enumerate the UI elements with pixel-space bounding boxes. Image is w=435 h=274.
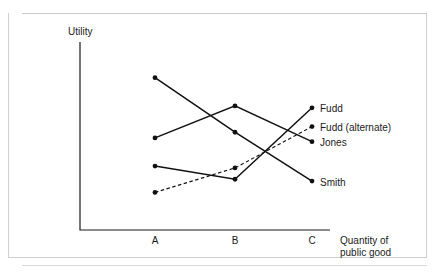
series-path — [155, 127, 312, 193]
series-label-fudd: Fudd — [320, 103, 343, 114]
series-path — [155, 106, 312, 142]
x-tick-label-b: B — [232, 235, 239, 246]
y-axis-title: Utility — [68, 26, 92, 37]
series-layer — [153, 75, 315, 194]
series-label-smith: Smith — [320, 177, 346, 188]
data-point-marker — [310, 179, 315, 184]
data-point-marker — [233, 177, 238, 182]
data-point-marker — [310, 139, 315, 144]
utility-line-chart: Utility A B C Quantity of public good Fu… — [0, 0, 435, 274]
figure-root: Utility A B C Quantity of public good Fu… — [0, 0, 435, 274]
x-axis-title-line1: Quantity of — [340, 235, 389, 246]
x-axis-title-line2: public good — [340, 247, 391, 258]
data-point-marker — [233, 104, 238, 109]
data-point-marker — [310, 124, 315, 129]
data-point-marker — [153, 75, 158, 80]
chart-axes — [80, 42, 330, 230]
data-point-marker — [153, 190, 158, 195]
data-point-marker — [233, 166, 238, 171]
data-point-marker — [310, 105, 315, 110]
series-fudd — [153, 105, 315, 181]
data-point-marker — [153, 135, 158, 140]
data-point-marker — [233, 130, 238, 135]
series-label-fudd-alternate: Fudd (alternate) — [320, 122, 391, 133]
x-tick-label-a: A — [152, 235, 159, 246]
series-label-jones: Jones — [320, 137, 347, 148]
series-fudd-alternate — [153, 124, 315, 195]
data-point-marker — [153, 164, 158, 169]
x-tick-label-c: C — [308, 235, 315, 246]
